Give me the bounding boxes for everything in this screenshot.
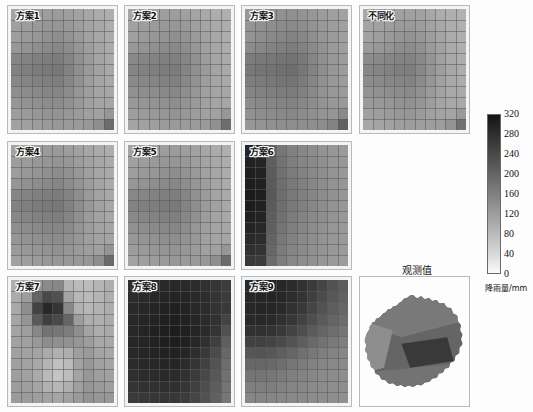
heatmap-cell — [266, 119, 276, 130]
heatmap-cell — [317, 86, 327, 97]
heatmap-cell — [11, 200, 21, 211]
heatmap-cell — [128, 255, 138, 266]
heatmap-cell — [128, 392, 138, 403]
heatmap-cells — [128, 9, 231, 130]
heatmap-cell — [307, 325, 317, 336]
heatmap-cell — [210, 178, 220, 189]
heatmap-cell — [445, 9, 455, 20]
heatmap-cell — [327, 222, 337, 233]
heatmap-cell — [297, 178, 307, 189]
heatmap-cell — [221, 392, 231, 403]
heatmap-cell — [286, 9, 296, 20]
heatmap-cell — [93, 222, 103, 233]
heatmap-cell — [327, 244, 337, 255]
heatmap-cell — [169, 381, 179, 392]
heatmap-cell — [327, 108, 337, 119]
heatmap-cell — [286, 381, 296, 392]
heatmap-cell — [297, 20, 307, 31]
heatmap-cell — [52, 64, 62, 75]
heatmap-cell — [404, 31, 414, 42]
heatmap-cell — [83, 369, 93, 380]
heatmap-cell — [317, 108, 327, 119]
heatmap-cell — [104, 156, 114, 167]
heatmap-cell — [63, 255, 73, 266]
heatmap-cell — [338, 31, 348, 42]
heatmap-cell — [276, 119, 286, 130]
heatmap-cell — [104, 244, 114, 255]
heatmap-cell — [327, 42, 337, 53]
heatmap-cell — [297, 392, 307, 403]
heatmap-cell — [128, 178, 138, 189]
heatmap-cell — [32, 86, 42, 97]
heatmap-cell — [149, 64, 159, 75]
heatmap-cell — [11, 189, 21, 200]
heatmap-cell — [169, 325, 179, 336]
heatmap-cell — [276, 392, 286, 403]
heatmap-cell — [297, 75, 307, 86]
observed-panel-title: 观测值 — [362, 262, 472, 277]
heatmap-cell — [338, 97, 348, 108]
heatmap-cell — [159, 200, 169, 211]
heatmap-cell — [93, 119, 103, 130]
heatmap-cell — [104, 255, 114, 266]
heatmap-cell — [384, 86, 394, 97]
heatmap-cell — [83, 302, 93, 313]
heatmap-cell — [297, 255, 307, 266]
heatmap-cell — [297, 97, 307, 108]
heatmap-cell — [63, 64, 73, 75]
heatmap-cell — [373, 86, 383, 97]
heatmap-cell — [21, 325, 31, 336]
heatmap-cell — [255, 392, 265, 403]
heatmap-cell — [307, 336, 317, 347]
heatmap-cell — [83, 75, 93, 86]
map-panel-plot-area: 方案3 — [245, 9, 348, 130]
heatmap-cell — [42, 392, 52, 403]
heatmap-cell — [93, 156, 103, 167]
heatmap-cell — [307, 156, 317, 167]
heatmap-cell — [32, 53, 42, 64]
heatmap-cell — [307, 302, 317, 313]
heatmap-cell — [255, 97, 265, 108]
heatmap-cell — [83, 53, 93, 64]
map-panel-p3: 方案3 — [241, 5, 352, 134]
heatmap-cell — [200, 189, 210, 200]
heatmap-cell — [317, 200, 327, 211]
heatmap-cell — [52, 381, 62, 392]
heatmap-cell — [42, 211, 52, 222]
heatmap-cell — [32, 381, 42, 392]
heatmap-cell — [159, 255, 169, 266]
heatmap-cell — [128, 97, 138, 108]
heatmap-cell — [255, 255, 265, 266]
heatmap-cell — [180, 302, 190, 313]
heatmap-cell — [180, 64, 190, 75]
heatmap-cell — [338, 200, 348, 211]
heatmap-cell — [149, 336, 159, 347]
heatmap-cell — [297, 9, 307, 20]
heatmap-cell — [159, 119, 169, 130]
heatmap-cell — [32, 314, 42, 325]
heatmap-cell — [445, 20, 455, 31]
heatmap-cell — [297, 119, 307, 130]
heatmap-cell — [93, 97, 103, 108]
heatmap-cell — [149, 314, 159, 325]
heatmap-cell — [245, 42, 255, 53]
heatmap-cell — [200, 280, 210, 291]
heatmap-cell — [32, 31, 42, 42]
heatmap-cell — [42, 20, 52, 31]
heatmap-cell — [42, 222, 52, 233]
heatmap-cell — [52, 347, 62, 358]
heatmap-cell — [415, 75, 425, 86]
heatmap-cell — [297, 156, 307, 167]
heatmap-cell — [307, 119, 317, 130]
heatmap-cell — [200, 222, 210, 233]
heatmap-cell — [404, 20, 414, 31]
heatmap-cell — [159, 336, 169, 347]
heatmap-cell — [255, 358, 265, 369]
heatmap-cell — [73, 381, 83, 392]
heatmap-cell — [327, 145, 337, 156]
heatmap-cell — [266, 211, 276, 222]
heatmap-cell — [338, 233, 348, 244]
heatmap-cell — [245, 64, 255, 75]
map-panel-p8: 方案7 — [7, 276, 118, 407]
heatmap-cell — [104, 233, 114, 244]
